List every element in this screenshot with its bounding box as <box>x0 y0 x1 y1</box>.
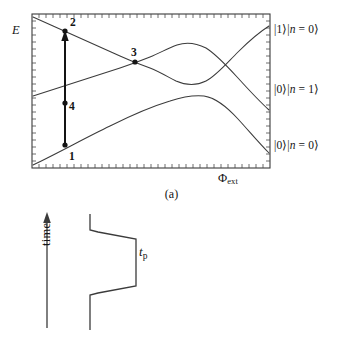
x-axis-label-flux: Φext <box>218 172 238 186</box>
state-label-upper: |1⟩|n = 0⟩ <box>274 24 319 36</box>
point-label-1: 1 <box>69 151 75 163</box>
state-upper-bra: |1⟩| <box>274 23 290 35</box>
transition-arrow <box>61 30 68 145</box>
time-arrow-head <box>43 212 51 223</box>
tp-subscript: p <box>143 251 148 261</box>
panel-a-energy-level-diagram: E Φext |1⟩|n = 0⟩ |0⟩|n = 1⟩ |0⟩|n = 0⟩ … <box>0 0 343 200</box>
pulse-waveform <box>90 214 136 330</box>
pulse-duration-label: tp <box>139 245 147 261</box>
figure-root: E Φext |1⟩|n = 0⟩ |0⟩|n = 1⟩ |0⟩|n = 0⟩ … <box>0 0 343 341</box>
y-axis-ticks <box>32 21 36 161</box>
phi-symbol: Φ <box>218 171 227 185</box>
curve-upper-branch <box>33 17 269 84</box>
y-axis-label-energy: E <box>12 24 20 37</box>
plot-frame <box>32 14 270 168</box>
phi-subscript: ext <box>227 176 238 186</box>
state-middle-rest: = 1⟩ <box>296 83 320 95</box>
panel-b-plot <box>0 200 343 341</box>
panel-b-pulse-timing-diagram: time tp (b) <box>0 200 343 341</box>
time-axis-label: time <box>40 223 53 246</box>
state-lower-rest: = 0⟩ <box>296 139 320 151</box>
marked-point-3 <box>132 59 137 64</box>
marked-points <box>62 28 137 147</box>
point-label-2: 2 <box>70 17 76 29</box>
x-axis-ticks <box>39 164 263 168</box>
marked-point-2 <box>62 28 67 33</box>
energy-level-curves <box>33 17 269 165</box>
marked-point-4 <box>62 100 67 105</box>
point-label-4: 4 <box>69 101 75 113</box>
pulse-path <box>90 214 136 330</box>
state-label-middle: |0⟩|n = 1⟩ <box>274 84 319 96</box>
state-upper-rest: = 0⟩ <box>296 23 320 35</box>
state-lower-bra: |0⟩| <box>274 139 290 151</box>
state-middle-bra: |0⟩| <box>274 83 290 95</box>
state-label-lower: |0⟩|n = 0⟩ <box>274 140 319 152</box>
frame-rect <box>32 14 270 168</box>
caption-panel-a: (a) <box>0 188 343 200</box>
right-axis-ticks <box>266 21 270 161</box>
point-label-3: 3 <box>131 47 137 59</box>
marked-point-1 <box>62 142 67 147</box>
